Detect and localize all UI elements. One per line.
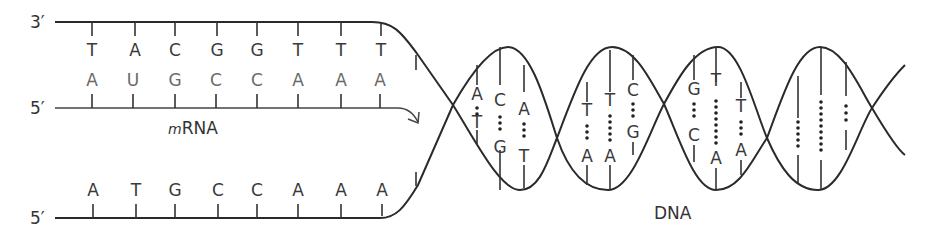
svg-text:T: T <box>710 70 722 90</box>
mrna-5prime-label: 5′ <box>30 98 45 118</box>
template-dna-strand <box>55 22 905 190</box>
svg-text:A: A <box>376 180 388 200</box>
svg-text:T: T <box>86 40 98 60</box>
svg-text:C: C <box>212 180 224 200</box>
svg-text:C: C <box>627 80 639 100</box>
svg-text:A: A <box>471 84 483 104</box>
svg-text:G: G <box>210 40 223 60</box>
svg-text:C: C <box>251 70 263 90</box>
svg-text:T: T <box>335 40 347 60</box>
svg-text:C: C <box>210 70 222 90</box>
svg-text:A: A <box>518 99 530 119</box>
svg-text:C: C <box>251 180 263 200</box>
svg-text:A: A <box>86 70 98 90</box>
svg-text:C: C <box>688 125 700 145</box>
diagram-canvas: 3′ 5′ 5′ mRNA DNA T A C G G T T T A U G … <box>0 0 938 241</box>
template-3prime-label: 3′ <box>30 12 45 32</box>
svg-text:C: C <box>494 90 506 110</box>
helix-base-pairs: A T C G A T T A T A C G G C T <box>471 47 848 190</box>
svg-text:A: A <box>129 40 141 60</box>
svg-text:A: A <box>710 148 722 168</box>
svg-text:A: A <box>374 70 386 90</box>
dna-label: DNA <box>654 203 692 223</box>
svg-text:T: T <box>604 90 616 110</box>
svg-text:C: C <box>169 40 181 60</box>
svg-text:A: A <box>335 180 347 200</box>
svg-text:T: T <box>130 180 142 200</box>
transcription-diagram: 3′ 5′ 5′ mRNA DNA T A C G G T T T A U G … <box>0 0 938 241</box>
svg-text:T: T <box>471 112 483 132</box>
svg-text:G: G <box>493 137 506 157</box>
svg-text:T: T <box>292 40 304 60</box>
coding-5prime-label: 5′ <box>30 208 45 228</box>
svg-text:A: A <box>735 140 747 160</box>
svg-text:T: T <box>518 146 530 166</box>
svg-text:T: T <box>375 40 387 60</box>
svg-text:A: A <box>292 70 304 90</box>
svg-text:A: A <box>581 146 593 166</box>
svg-text:G: G <box>687 79 700 99</box>
svg-text:A: A <box>604 146 616 166</box>
svg-text:U: U <box>127 70 139 90</box>
svg-text:T: T <box>581 100 593 120</box>
svg-text:A: A <box>335 70 347 90</box>
svg-text:G: G <box>626 122 639 142</box>
svg-text:A: A <box>87 180 99 200</box>
svg-text:T: T <box>735 96 747 116</box>
svg-text:G: G <box>250 40 263 60</box>
mrna-label: mRNA <box>168 118 218 138</box>
mrna-strand <box>55 108 418 122</box>
svg-text:G: G <box>168 70 181 90</box>
mrna-bases: A U G C C A A A <box>86 70 386 108</box>
coding-bases: A T G C C A A A <box>87 172 416 218</box>
template-bases: T A C G G T T T <box>86 22 416 70</box>
svg-text:G: G <box>168 180 181 200</box>
svg-text:A: A <box>292 180 304 200</box>
